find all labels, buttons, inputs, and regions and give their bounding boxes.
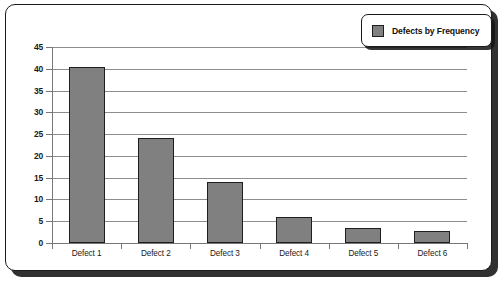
bar[interactable] <box>414 231 450 243</box>
bar[interactable] <box>138 138 174 243</box>
x-axis-tick-label: Defect 3 <box>210 249 240 258</box>
x-tick <box>467 243 468 249</box>
y-axis-tick-label: 45 <box>34 42 43 52</box>
chart-screenshot: Defects by Frequency 051015202530354045 … <box>0 0 504 284</box>
y-axis-tick-label: 30 <box>34 107 43 117</box>
y-tick <box>46 178 52 179</box>
gridline <box>52 112 467 113</box>
bar[interactable] <box>69 67 105 243</box>
y-tick <box>46 112 52 113</box>
y-axis-tick-label: 35 <box>34 86 43 96</box>
y-axis-tick-label: 40 <box>34 64 43 74</box>
gridline <box>52 91 467 92</box>
x-tick <box>329 243 330 249</box>
plot-area: 051015202530354045 Defect 1Defect 2Defec… <box>52 47 467 243</box>
legend-label: Defects by Frequency <box>392 26 479 36</box>
bar[interactable] <box>345 228 381 243</box>
bar[interactable] <box>207 182 243 243</box>
x-axis-tick-label: Defect 1 <box>72 249 102 258</box>
gridline <box>52 47 467 48</box>
y-tick <box>46 91 52 92</box>
gridline <box>52 134 467 135</box>
y-tick <box>46 221 52 222</box>
y-tick <box>46 134 52 135</box>
y-axis <box>52 47 53 243</box>
y-tick <box>46 47 52 48</box>
y-axis-tick-label: 20 <box>34 151 43 161</box>
bar[interactable] <box>276 217 312 243</box>
x-axis-tick-label: Defect 6 <box>418 249 448 258</box>
x-axis-tick-label: Defect 2 <box>141 249 171 258</box>
y-tick <box>46 69 52 70</box>
x-tick <box>52 243 53 249</box>
y-axis-tick-label: 10 <box>34 194 43 204</box>
legend-swatch-icon <box>372 25 384 37</box>
x-tick <box>190 243 191 249</box>
y-axis-tick-label: 5 <box>38 216 43 226</box>
gridline <box>52 156 467 157</box>
chart-legend[interactable]: Defects by Frequency <box>361 14 492 47</box>
x-axis-tick-label: Defect 4 <box>279 249 309 258</box>
x-tick <box>260 243 261 249</box>
gridline <box>52 178 467 179</box>
gridline <box>52 69 467 70</box>
y-tick <box>46 156 52 157</box>
chart-frame: Defects by Frequency 051015202530354045 … <box>5 4 492 271</box>
y-axis-tick-label: 25 <box>34 129 43 139</box>
y-tick <box>46 199 52 200</box>
x-axis-tick-label: Defect 5 <box>348 249 378 258</box>
x-tick <box>398 243 399 249</box>
y-axis-tick-label: 15 <box>34 173 43 183</box>
x-tick <box>121 243 122 249</box>
gridline <box>52 199 467 200</box>
gridline <box>52 221 467 222</box>
y-axis-tick-label: 0 <box>38 238 43 248</box>
